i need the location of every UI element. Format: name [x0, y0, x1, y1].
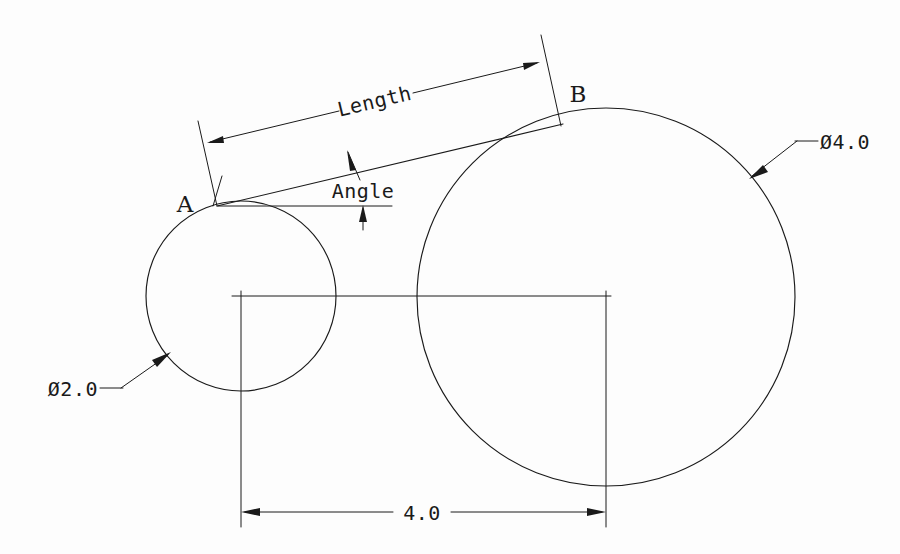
- extension-line-b: [541, 35, 561, 126]
- center-distance-arrowhead-right: [587, 508, 606, 516]
- point-a-tick: [213, 176, 222, 206]
- length-dimension-line-right: [413, 63, 537, 93]
- length-arrowhead-left: [207, 136, 224, 143]
- center-distance-label: 4.0: [403, 501, 441, 525]
- angle-arrowhead-lower: [359, 205, 367, 222]
- engineering-drawing-canvas: A B Length Angle Ø2.0 Ø4.0 4.0: [0, 0, 900, 554]
- extension-line-a: [198, 121, 217, 206]
- point-a-label: A: [176, 191, 194, 217]
- length-dimension-label: Length: [335, 81, 414, 122]
- large-circle-diameter-label: Ø4.0: [820, 130, 870, 154]
- length-dimension-line-left: [210, 111, 339, 142]
- point-b-label: B: [570, 81, 587, 107]
- angle-arrowhead-upper: [347, 150, 356, 171]
- cad-drawing-svg: A B Length Angle Ø2.0 Ø4.0 4.0: [0, 0, 900, 554]
- large-diameter-arrowhead: [749, 165, 768, 179]
- length-arrowhead-right: [523, 62, 540, 70]
- small-circle-diameter-label: Ø2.0: [48, 377, 98, 401]
- angle-dimension-label: Angle: [332, 179, 395, 203]
- center-distance-arrowhead-left: [241, 508, 260, 516]
